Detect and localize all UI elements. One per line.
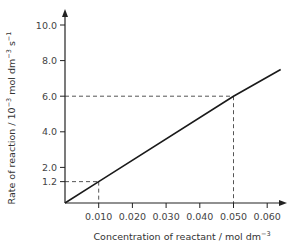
- x-axis-title: Concentration of reactant / mol dm−3: [93, 230, 270, 242]
- rate-vs-concentration-chart: 0.0100.0200.0300.0400.0500.0601.22.04.06…: [0, 0, 299, 247]
- y-tick-label: 4.0: [42, 126, 57, 137]
- y-axis-arrow-icon: [62, 9, 68, 17]
- rate-line: [65, 70, 281, 204]
- y-tick-label: 6.0: [42, 91, 57, 102]
- y-tick-label: 2.0: [42, 162, 57, 173]
- y-axis-title: Rate of reaction / 10−3 mol dm−3 s−1: [5, 32, 17, 205]
- chart-plot-area: 0.0100.0200.0300.0400.0500.0601.22.04.06…: [0, 0, 299, 247]
- x-tick-label: 0.060: [254, 211, 281, 222]
- x-tick-label: 0.050: [220, 211, 247, 222]
- x-tick-label: 0.040: [186, 211, 213, 222]
- y-tick-label: 1.2: [42, 176, 57, 187]
- x-tick-label: 0.030: [152, 211, 179, 222]
- x-tick-label: 0.010: [85, 211, 112, 222]
- x-axis-arrow-icon: [279, 200, 287, 206]
- y-tick-label: 10.0: [36, 20, 57, 31]
- x-tick-label: 0.020: [119, 211, 146, 222]
- y-tick-label: 8.0: [42, 55, 57, 66]
